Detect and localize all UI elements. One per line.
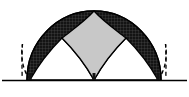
- left-pier: [29, 73, 32, 80]
- figure-container: Gothic twin-arch dome geometry diagram A…: [0, 0, 189, 97]
- center-pier: [93, 73, 96, 80]
- right-pier: [157, 73, 160, 80]
- geometry-figure: Gothic twin-arch dome geometry diagram A…: [0, 0, 189, 97]
